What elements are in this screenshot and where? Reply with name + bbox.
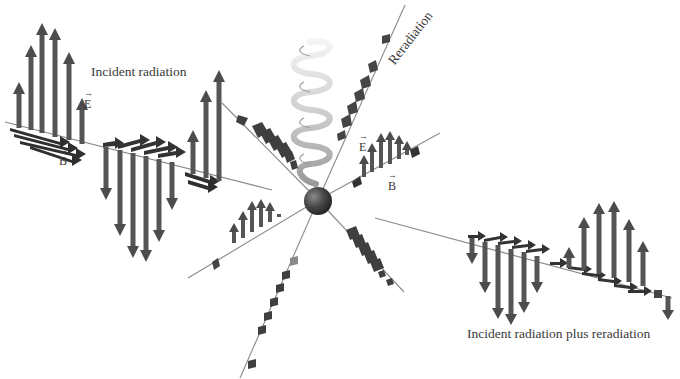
magnetic-field-label-right: → B [388, 179, 396, 194]
vector-arrow-icon: → [359, 131, 368, 141]
rerad-wave-lower-left [212, 199, 279, 270]
incident-wave-positive-lobe [10, 23, 88, 166]
magnetic-field-label-left: → B [59, 154, 67, 169]
vector-arrow-icon: → [84, 88, 93, 98]
electric-field-label-left: → E [84, 97, 91, 112]
charge-sphere [304, 187, 332, 215]
rerad-wave-upper-left [236, 115, 298, 170]
b-symbol: B [59, 154, 67, 168]
incident-wave-positive-lobe-2 [185, 70, 225, 193]
vector-arrow-icon: → [59, 145, 68, 155]
incident-plus-reradiation-label: Incident radiation plus reradiation [467, 326, 650, 342]
electric-field-label-right: → E [359, 140, 366, 155]
incident-axis [5, 122, 272, 190]
rerad-wave-upper-right [337, 34, 390, 141]
vector-arrow-icon: → [388, 170, 397, 180]
scattering-diagram [0, 0, 680, 379]
output-wave-positive-lobe [550, 201, 674, 320]
e-symbol: E [359, 140, 366, 154]
e-symbol: E [84, 97, 91, 111]
b-symbol: B [388, 179, 396, 193]
spring [294, 41, 330, 184]
rerad-wave-down [248, 256, 298, 369]
incident-wave-negative-lobe [100, 134, 186, 262]
incident-radiation-label: Incident radiation [91, 64, 187, 80]
output-wave-negative-lobe [466, 231, 550, 325]
rerad-wave-lower-right [346, 226, 394, 286]
